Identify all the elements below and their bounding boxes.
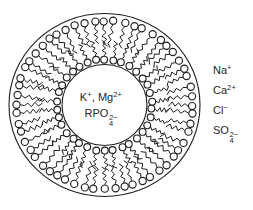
superscript-charge: + — [227, 63, 232, 72]
outer-leaflet-phospholipid-head — [139, 177, 146, 184]
outer-leaflet-phospholipid-head — [46, 35, 53, 42]
outer-leaflet-phospholipid-head — [189, 102, 196, 109]
stacked-sub-superscript: 2−4 — [229, 132, 238, 146]
outer-leaflet-phospholipid-head — [39, 42, 46, 49]
inner-leaflet-phospholipid-head — [147, 114, 154, 121]
inner-leaflet-phospholipid-head — [144, 122, 151, 129]
outer-leaflet-phospholipid-head — [181, 65, 188, 72]
outer-leaflet-phospholipid-head — [71, 22, 78, 29]
outer-leaflet-phospholipid-head — [187, 83, 194, 90]
outer-leaflet-phospholipid-head — [90, 185, 97, 192]
inner-leaflet-phospholipid-head — [63, 74, 70, 81]
superscript-charge: + — [87, 90, 92, 99]
extracellular-ion-label-sodium: Na+ — [213, 61, 238, 81]
outer-leaflet-phospholipid-head — [149, 31, 156, 38]
outer-leaflet-phospholipid-head — [15, 120, 22, 127]
outer-leaflet-phospholipid-head — [170, 153, 177, 160]
extracellular-ion-label-calcium: Ca2+ — [213, 81, 238, 101]
inner-leaflet-phospholipid-head — [58, 121, 65, 128]
outer-leaflet-phospholipid-head — [163, 162, 170, 169]
outer-leaflet-phospholipid-head — [156, 167, 163, 174]
outer-leaflet-phospholipid-head — [71, 180, 78, 187]
outer-leaflet-phospholipid-head — [112, 185, 119, 192]
outer-leaflet-phospholipid-head — [31, 153, 38, 160]
intracellular-cations-label: K+, Mg2+ — [80, 90, 122, 106]
outer-leaflet-phospholipid-head — [100, 18, 107, 25]
superscript-charge: 2+ — [227, 83, 236, 92]
outer-leaflet-phospholipid-head — [61, 176, 68, 183]
outer-leaflet-phospholipid-head — [131, 23, 138, 30]
inner-leaflet-phospholipid-head — [110, 57, 117, 64]
outer-leaflet-phospholipid-head — [92, 18, 99, 25]
outer-leaflet-phospholipid-head — [81, 184, 88, 191]
outer-leaflet-phospholipid-head — [54, 172, 61, 179]
outer-leaflet-phospholipid-head — [180, 139, 187, 146]
outer-leaflet-phospholipid-head — [13, 109, 20, 116]
extracellular-ion-label-sulfate: SO2−4 — [213, 121, 238, 145]
outer-leaflet-phospholipid-head — [81, 20, 88, 27]
inner-leaflet-phospholipid-head — [101, 56, 108, 63]
inner-leaflet-phospholipid-head — [59, 82, 66, 89]
inner-leaflet-phospholipid-head — [93, 147, 100, 154]
inner-leaflet-phospholipid-head — [54, 106, 61, 113]
inner-leaflet-phospholipid-head — [109, 147, 116, 154]
outer-leaflet-phospholipid-head — [101, 185, 108, 192]
inner-leaflet-phospholipid-head — [70, 135, 77, 142]
inner-leaflet-phospholipid-head — [101, 147, 108, 154]
outer-leaflet-phospholipid-head — [122, 19, 129, 26]
outer-leaflet-phospholipid-head — [16, 82, 23, 89]
inner-leaflet-phospholipid-head — [149, 98, 156, 105]
extracellular-ion-labels: Na+Ca2+Cl−SO2−4 — [213, 61, 238, 145]
outer-leaflet-phospholipid-head — [146, 173, 153, 180]
superscript-charge: − — [223, 103, 228, 112]
outer-leaflet-phospholipid-head — [138, 25, 145, 32]
inner-leaflet-phospholipid-head — [93, 56, 100, 63]
outer-leaflet-phospholipid-head — [188, 93, 195, 100]
outer-leaflet-phospholipid-head — [14, 91, 21, 98]
inner-leaflet-phospholipid-head — [76, 63, 83, 70]
outer-leaflet-phospholipid-head — [187, 120, 194, 127]
outer-leaflet-phospholipid-head — [185, 128, 192, 135]
outer-leaflet-phospholipid-head — [163, 42, 170, 49]
outer-leaflet-phospholipid-head — [169, 48, 176, 55]
outer-leaflet-phospholipid-head — [13, 101, 20, 108]
inner-leaflet-phospholipid-head — [139, 75, 146, 82]
outer-leaflet-phospholipid-head — [32, 50, 39, 57]
inner-leaflet-phospholipid-head — [84, 144, 91, 151]
outer-leaflet-phospholipid-head — [157, 36, 164, 43]
outer-leaflet-phospholipid-head — [46, 168, 53, 175]
intracellular-ion-labels: K+, Mg2+ RPO2−4 — [80, 90, 122, 128]
outer-leaflet-phospholipid-head — [27, 146, 34, 153]
outer-leaflet-phospholipid-head — [53, 31, 60, 38]
inner-leaflet-phospholipid-head — [133, 68, 140, 75]
inner-leaflet-phospholipid-head — [139, 128, 146, 135]
inner-leaflet-phospholipid-head — [144, 81, 151, 88]
outer-leaflet-phospholipid-head — [26, 58, 33, 65]
inner-leaflet-phospholipid-head — [148, 105, 155, 112]
extracellular-ion-label-chloride: Cl− — [213, 101, 238, 121]
intracellular-phosphate-label: RPO2−4 — [80, 106, 122, 128]
outer-leaflet-phospholipid-head — [189, 110, 196, 117]
liposome-figure: K+, Mg2+ RPO2−4 Na+Ca2+Cl−SO2−4 — [0, 0, 253, 210]
inner-leaflet-phospholipid-head — [63, 130, 70, 137]
outer-leaflet-phospholipid-head — [39, 162, 46, 169]
inner-leaflet-phospholipid-head — [70, 68, 77, 75]
inner-leaflet-phospholipid-head — [119, 144, 126, 151]
superscript-charge: 2+ — [113, 90, 122, 99]
inner-leaflet-phospholipid-head — [54, 98, 61, 105]
outer-leaflet-phospholipid-head — [62, 26, 69, 33]
outer-leaflet-phospholipid-head — [17, 75, 24, 82]
outer-leaflet-phospholipid-head — [121, 183, 128, 190]
inner-leaflet-phospholipid-head — [56, 114, 63, 121]
outer-leaflet-phospholipid-head — [17, 128, 24, 135]
outer-leaflet-phospholipid-head — [183, 72, 190, 79]
outer-leaflet-phospholipid-head — [110, 17, 117, 24]
outer-leaflet-phospholipid-head — [129, 181, 136, 188]
inner-leaflet-phospholipid-head — [55, 89, 62, 96]
inner-leaflet-phospholipid-head — [146, 90, 153, 97]
inner-leaflet-phospholipid-head — [117, 59, 124, 66]
outer-leaflet-phospholipid-head — [21, 138, 28, 145]
inner-leaflet-phospholipid-head — [134, 135, 141, 142]
outer-leaflet-phospholipid-head — [175, 57, 182, 64]
stacked-sub-superscript: 2−4 — [109, 115, 118, 129]
